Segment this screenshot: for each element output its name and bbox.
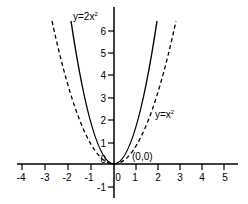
y-tick-label: 2 xyxy=(100,115,106,126)
x-tick-label: 1 xyxy=(132,172,138,183)
parabola-chart: -4 -3 -2 -1 0 1 2 3 4 5 6 5 4 3 2 1 0 -1… xyxy=(0,0,248,204)
curve-label-2x-squared: y=2x2 xyxy=(73,11,98,22)
x-tick-label: -3 xyxy=(41,172,50,183)
x-tick-label: -4 xyxy=(17,172,26,183)
y-tick-label: 6 xyxy=(100,26,106,37)
x-tick-label: 3 xyxy=(177,172,183,183)
x-tick-labels: -4 -3 -2 -1 0 1 2 3 4 5 xyxy=(17,172,229,183)
x-tick-label: 4 xyxy=(199,172,205,183)
y-tick-label: 3 xyxy=(100,93,106,104)
y-tick-label: -1 xyxy=(97,182,106,193)
y-tick-labels: 6 5 4 3 2 1 0 -1 xyxy=(97,26,106,193)
x-tick-label: -1 xyxy=(85,172,94,183)
x-ticks xyxy=(22,164,224,170)
curve-label-x-squared: y=x2 xyxy=(155,109,175,120)
origin-label: (0,0) xyxy=(132,151,153,162)
y-tick-label: 5 xyxy=(100,48,106,59)
y-tick-label: 1 xyxy=(100,138,106,149)
y-tick-label: 4 xyxy=(100,70,106,81)
x-tick-label: 5 xyxy=(222,172,228,183)
x-tick-label: -2 xyxy=(63,172,72,183)
x-tick-label: 2 xyxy=(155,172,161,183)
x-tick-label: 0 xyxy=(115,172,121,183)
